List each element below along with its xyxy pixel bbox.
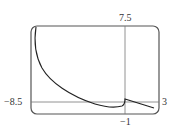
plotted-curve xyxy=(35,27,154,108)
y-min-label: −1 xyxy=(120,117,131,127)
x-min-label: −8.5 xyxy=(4,97,22,107)
viewing-window-frame xyxy=(31,26,159,114)
calculator-graph xyxy=(0,0,176,132)
x-max-label: 3 xyxy=(162,97,167,107)
y-max-label: 7.5 xyxy=(119,13,132,23)
